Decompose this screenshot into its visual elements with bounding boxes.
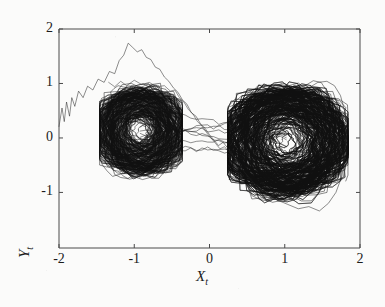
y-axis-label-letter: Y <box>16 250 32 258</box>
x-tick-label: -1 <box>120 251 148 267</box>
x-axis-label: Xt <box>196 268 208 287</box>
x-axis-label-subscript: t <box>205 276 208 287</box>
y-axis-label-subscript: t <box>24 247 35 250</box>
y-tick-label: 0 <box>25 129 53 145</box>
x-tick-label: 0 <box>196 251 224 267</box>
figure-page: Xt Yt -2-1012-1012 <box>0 0 385 307</box>
y-tick-label: -1 <box>25 183 53 199</box>
x-tick-label: 1 <box>271 251 299 267</box>
x-tick-label: 2 <box>346 251 374 267</box>
y-axis-label: Yt <box>16 247 35 258</box>
trajectory-ink <box>59 43 348 211</box>
y-tick-label: 1 <box>25 74 53 90</box>
y-tick-label: 2 <box>25 20 53 36</box>
x-axis-label-letter: X <box>196 268 205 284</box>
x-tick-label: -2 <box>45 251 73 267</box>
